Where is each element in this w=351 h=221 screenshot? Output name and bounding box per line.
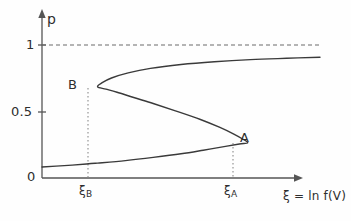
y-tick-label-0: 0 — [27, 170, 35, 183]
chart-figure: p ξ = ln f(V) 1 0.5 0 ξB ξA A B — [0, 0, 351, 221]
x-axis — [42, 174, 303, 181]
y-tick-label-0point5: 0.5 — [11, 105, 32, 118]
x-tick-label-xi-b: ξB — [79, 185, 92, 199]
y-axis-title: p — [47, 12, 56, 26]
annotation-label-b: B — [68, 78, 77, 91]
xi-subscript-a: A — [231, 189, 237, 199]
x-tick-label-xi-a: ξA — [224, 185, 237, 199]
s-curve-hysteresis — [42, 57, 320, 167]
x-axis-title: ξ = ln f(V) — [283, 190, 346, 202]
plot-canvas — [0, 0, 351, 221]
y-axis — [38, 9, 45, 178]
xi-symbol-a: ξ — [224, 184, 231, 198]
xi-symbol-b: ξ — [79, 184, 86, 198]
xi-subscript-b: B — [86, 189, 92, 199]
annotation-label-a: A — [240, 131, 249, 144]
y-tick-label-1: 1 — [26, 38, 34, 51]
